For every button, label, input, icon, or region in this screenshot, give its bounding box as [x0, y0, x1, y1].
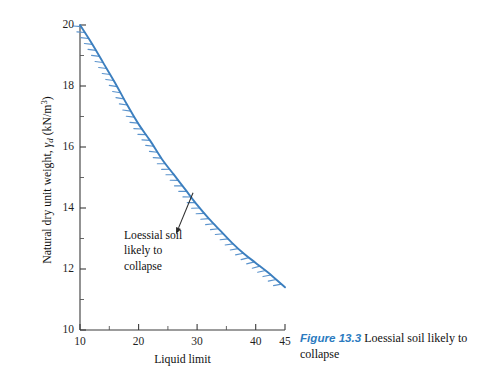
annotation-line-1: Loessial soil — [124, 228, 182, 243]
x-axis-major-ticks — [80, 324, 285, 330]
hatch-mark — [241, 258, 249, 260]
gamma-symbol: γ — [40, 143, 54, 148]
y-axis-units-open: (kN/m — [40, 105, 54, 139]
figure-container: 20 18 16 14 12 10 10 20 30 40 45 Natural… — [0, 0, 490, 389]
y-axis-units-exponent: 3 — [39, 100, 49, 104]
collapse-boundary-curve — [80, 25, 285, 287]
y-tick-label-10: 10 — [52, 324, 74, 336]
figure-caption: Figure 13.3 Loessial soil likely to coll… — [300, 330, 480, 362]
x-axis-minor-ticks — [109, 326, 226, 330]
hatch-mark — [236, 253, 244, 255]
axes-group — [80, 25, 285, 330]
x-axis-title: Liquid limit — [80, 352, 285, 367]
hatch-mark — [206, 224, 214, 225]
x-tick-label-10: 10 — [69, 336, 91, 348]
gamma-subscript: d — [45, 138, 55, 142]
y-tick-label-16: 16 — [52, 141, 74, 153]
y-axis-title: Natural dry unit weight, γd (kN/m3) — [39, 55, 55, 305]
hatch-mark — [220, 239, 228, 240]
y-tick-label-12: 12 — [52, 263, 74, 275]
figure-caption-label: Figure 13.3 — [300, 331, 361, 344]
x-tick-label-30: 30 — [186, 336, 208, 348]
y-tick-label-18: 18 — [52, 80, 74, 92]
y-axis-units-close: ) — [40, 96, 54, 100]
y-axis-minor-ticks — [80, 56, 84, 300]
hatch-mark — [225, 244, 233, 245]
y-tick-label-14: 14 — [52, 202, 74, 214]
x-tick-label-45: 45 — [274, 336, 296, 348]
annotation-line-2: likely to — [124, 243, 182, 258]
x-tick-label-40: 40 — [245, 336, 267, 348]
loessial-soil-annotation: Loessial soil likely to collapse — [124, 228, 182, 274]
y-axis-title-prefix: Natural dry unit weight, — [40, 147, 54, 263]
hatch-mark — [201, 219, 209, 220]
x-tick-label-20: 20 — [128, 336, 150, 348]
y-tick-label-20: 20 — [52, 19, 74, 31]
annotation-line-3: collapse — [124, 259, 182, 274]
